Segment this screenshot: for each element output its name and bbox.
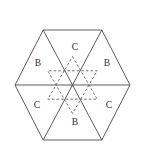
hexagon-star-figure: C B B C C B bbox=[0, 0, 144, 157]
label-lower-left: C bbox=[34, 101, 40, 111]
label-upper-left: B bbox=[35, 59, 41, 69]
label-lower-right: C bbox=[106, 101, 112, 111]
label-bottom: B bbox=[72, 118, 78, 128]
label-upper-right: B bbox=[104, 59, 110, 69]
hexagram-triangle-down bbox=[48, 71, 97, 114]
label-top: C bbox=[72, 43, 78, 53]
hexagram-triangle-up bbox=[48, 57, 97, 100]
figure-canvas bbox=[0, 0, 144, 157]
